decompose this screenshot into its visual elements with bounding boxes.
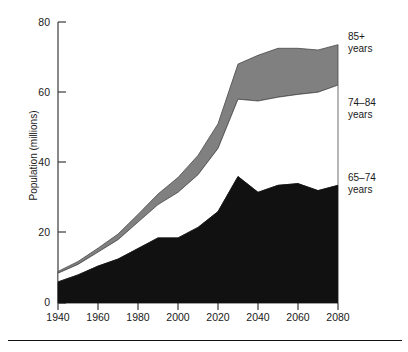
chart-plot-area xyxy=(0,0,408,352)
legend-label-74-84-line2: years xyxy=(348,109,376,121)
y-axis xyxy=(58,22,66,303)
x-axis-ticks xyxy=(58,303,338,310)
footer-divider xyxy=(8,340,402,341)
legend-item-65-74: 65–74 years xyxy=(348,172,376,196)
legend-label-85-plus-line1: 85+ xyxy=(348,31,372,43)
legend-label-85-plus-line2: years xyxy=(348,43,372,55)
legend-label-74-84-line1: 74–84 xyxy=(348,97,376,109)
chart-figure: Population (millions) 80 60 40 20 0 1940… xyxy=(0,0,408,352)
legend-label-65-74-line1: 65–74 xyxy=(348,172,376,184)
legend-item-74-84: 74–84 years xyxy=(348,97,376,121)
legend-item-85-plus: 85+ years xyxy=(348,31,372,55)
legend-label-65-74-line2: years xyxy=(348,184,376,196)
